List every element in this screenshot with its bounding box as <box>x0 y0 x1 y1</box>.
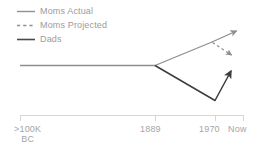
axis-tick-label-start-line2: BC <box>14 134 41 144</box>
axis-tick-label-start-line1: >100K <box>14 124 41 134</box>
axis-tick-label-now: Now <box>228 124 247 134</box>
legend-label-moms-actual: Moms Actual <box>40 7 93 16</box>
axis-tick-label-1889: 1889 <box>140 124 161 134</box>
axis-tick-label-1970: 1970 <box>199 124 220 134</box>
series-line-dads <box>155 66 231 101</box>
legend-label-dads: Dads <box>40 35 62 44</box>
axis-tick-label-start: >100K BC <box>14 124 41 144</box>
legend-label-moms-projected: Moms Projected <box>40 21 107 30</box>
chart-container: Moms Actual Moms Projected Dads >100K BC… <box>0 0 260 151</box>
series-line-moms-projected <box>213 43 232 56</box>
